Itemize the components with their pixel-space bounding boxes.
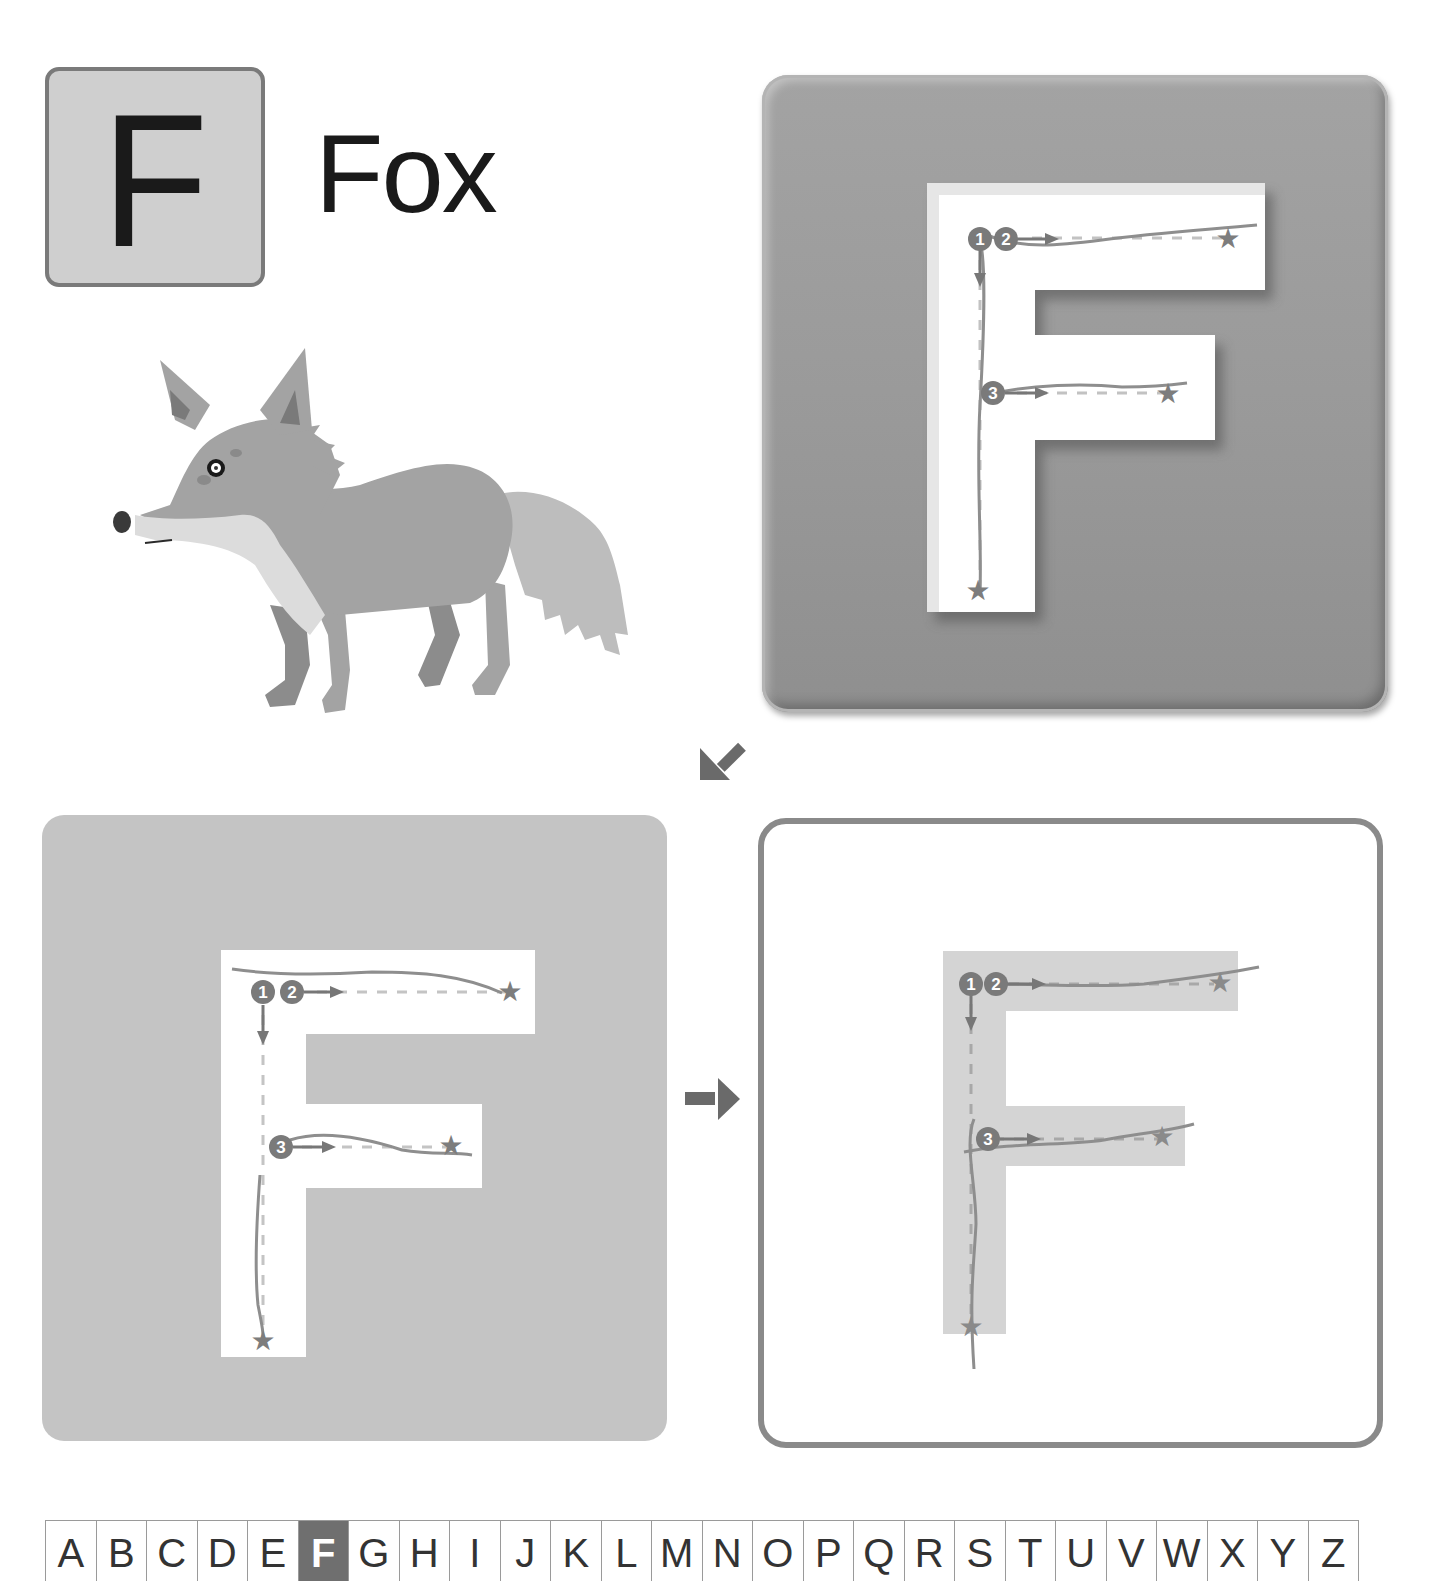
- alphabet-letter-j[interactable]: J: [501, 1521, 552, 1581]
- alphabet-letter-v[interactable]: V: [1107, 1521, 1158, 1581]
- star-icon: ★: [1207, 967, 1232, 998]
- alphabet-letter-c[interactable]: C: [147, 1521, 198, 1581]
- stroke-number-1: 1: [968, 227, 992, 251]
- alphabet-letter-p[interactable]: P: [804, 1521, 855, 1581]
- alphabet-letter-g[interactable]: G: [349, 1521, 400, 1581]
- alphabet-letter-a[interactable]: A: [46, 1521, 97, 1581]
- alphabet-letter-d[interactable]: D: [198, 1521, 249, 1581]
- alphabet-letter-q[interactable]: Q: [854, 1521, 905, 1581]
- star-icon: ★: [1155, 378, 1180, 409]
- alphabet-letter-r[interactable]: R: [905, 1521, 956, 1581]
- arrow-right-icon: [684, 1076, 742, 1122]
- star-icon: ★: [250, 1325, 275, 1356]
- stroke-number-3: 3: [269, 1135, 293, 1159]
- trace-panel-flat[interactable]: 1 2 3 ★ ★ ★: [42, 815, 667, 1441]
- letter-f-embossed: 1 2 3 ★ ★ ★: [762, 75, 1388, 712]
- stroke-number-1: 1: [959, 972, 983, 996]
- star-icon: ★: [965, 575, 990, 606]
- svg-text:3: 3: [983, 1130, 992, 1149]
- alphabet-letter-l[interactable]: L: [602, 1521, 653, 1581]
- star-icon: ★: [958, 1311, 983, 1342]
- svg-text:3: 3: [276, 1138, 285, 1157]
- alphabet-nav: ABCDEFGHIJKLMNOPQRSTUVWXYZ: [45, 1520, 1359, 1581]
- alphabet-letter-h[interactable]: H: [400, 1521, 451, 1581]
- star-icon: ★: [497, 976, 522, 1007]
- svg-text:2: 2: [287, 983, 296, 1002]
- letter-card: F: [45, 67, 265, 287]
- stroke-number-3: 3: [981, 381, 1005, 405]
- alphabet-letter-n[interactable]: N: [703, 1521, 754, 1581]
- stroke-number-3: 3: [976, 1127, 1000, 1151]
- star-icon: ★: [438, 1130, 463, 1161]
- star-icon: ★: [1215, 223, 1240, 254]
- alphabet-letter-k[interactable]: K: [551, 1521, 602, 1581]
- stroke-number-1: 1: [251, 980, 275, 1004]
- fox-illustration-icon: [100, 335, 660, 725]
- svg-text:1: 1: [258, 983, 267, 1002]
- alphabet-letter-o[interactable]: O: [753, 1521, 804, 1581]
- trace-panel-outline[interactable]: 1 2 3 ★ ★ ★: [758, 818, 1383, 1448]
- star-icon: ★: [1149, 1121, 1174, 1152]
- svg-text:1: 1: [966, 975, 975, 994]
- alphabet-letter-y[interactable]: Y: [1258, 1521, 1309, 1581]
- svg-text:1: 1: [975, 230, 984, 249]
- alphabet-letter-z[interactable]: Z: [1309, 1521, 1360, 1581]
- svg-text:2: 2: [1001, 230, 1010, 249]
- alphabet-letter-x[interactable]: X: [1208, 1521, 1259, 1581]
- alphabet-letter-f[interactable]: F: [299, 1521, 350, 1581]
- alphabet-letter-b[interactable]: B: [97, 1521, 148, 1581]
- letter-f-flat: 1 2 3 ★ ★ ★: [42, 815, 667, 1441]
- trace-panel-embossed[interactable]: 1 2 3 ★ ★ ★: [762, 75, 1388, 712]
- letter-f-outline: 1 2 3 ★ ★ ★: [764, 824, 1377, 1442]
- alphabet-letter-i[interactable]: I: [450, 1521, 501, 1581]
- stroke-number-2: 2: [984, 972, 1008, 996]
- alphabet-letter-m[interactable]: M: [652, 1521, 703, 1581]
- alphabet-letter-e[interactable]: E: [248, 1521, 299, 1581]
- letter-card-glyph: F: [57, 71, 252, 283]
- alphabet-letter-s[interactable]: S: [955, 1521, 1006, 1581]
- alphabet-letter-t[interactable]: T: [1006, 1521, 1057, 1581]
- word-title: Fox: [315, 118, 496, 230]
- svg-text:2: 2: [991, 975, 1000, 994]
- alphabet-letter-w[interactable]: W: [1157, 1521, 1208, 1581]
- arrow-down-left-icon: [698, 736, 748, 782]
- svg-text:3: 3: [988, 384, 997, 403]
- alphabet-letter-u[interactable]: U: [1056, 1521, 1107, 1581]
- stroke-number-2: 2: [280, 980, 304, 1004]
- stroke-number-2: 2: [994, 227, 1018, 251]
